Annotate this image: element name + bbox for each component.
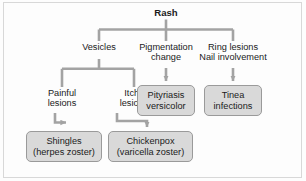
node-pityriasis-line1: Pityriasis: [148, 90, 185, 100]
node-vesicles-label: Vesicles: [82, 42, 116, 52]
node-shingles: Shingles (herpes zoster): [26, 131, 102, 162]
node-painful-line2: lesions: [38, 98, 86, 108]
node-chickenpox-line2: (varicella zoster): [117, 147, 184, 157]
node-tinea-line2: infections: [214, 101, 253, 111]
node-root-label: Rash: [154, 7, 177, 18]
node-tinea-line1: Tinea: [222, 90, 245, 100]
node-shingles-line2: (herpes zoster): [33, 147, 95, 157]
node-painful-line1: Painful: [38, 88, 86, 98]
node-chickenpox-line1: Chickenpox: [126, 136, 174, 146]
node-shingles-line1: Shingles: [46, 136, 81, 146]
node-painful-lesions: Painful lesions: [38, 88, 86, 109]
diagram-canvas: Rash Vesicles Pigmentation change Ring l…: [0, 0, 306, 181]
node-ring-lesions-nail-involvement: Ring lesions Nail involvement: [193, 42, 273, 63]
node-pigmentation-change: Pigmentation change: [129, 42, 203, 63]
node-pityriasis-versicolor: Pityriasis versicolor: [137, 85, 195, 116]
node-pigmentation-line1: Pigmentation: [129, 42, 203, 52]
node-pigmentation-line2: change: [129, 52, 203, 62]
node-ringnail-line2: Nail involvement: [193, 52, 273, 62]
node-pityriasis-line2: versicolor: [146, 101, 185, 111]
edge-painful-to-shingles: [55, 113, 66, 123]
node-tinea-infections: Tinea infections: [204, 85, 262, 116]
node-ringnail-line1: Ring lesions: [193, 42, 273, 52]
node-root-rash: Rash: [146, 8, 186, 19]
node-chickenpox: Chickenpox (varicella zoster): [108, 131, 193, 162]
node-vesicles: Vesicles: [74, 42, 124, 52]
